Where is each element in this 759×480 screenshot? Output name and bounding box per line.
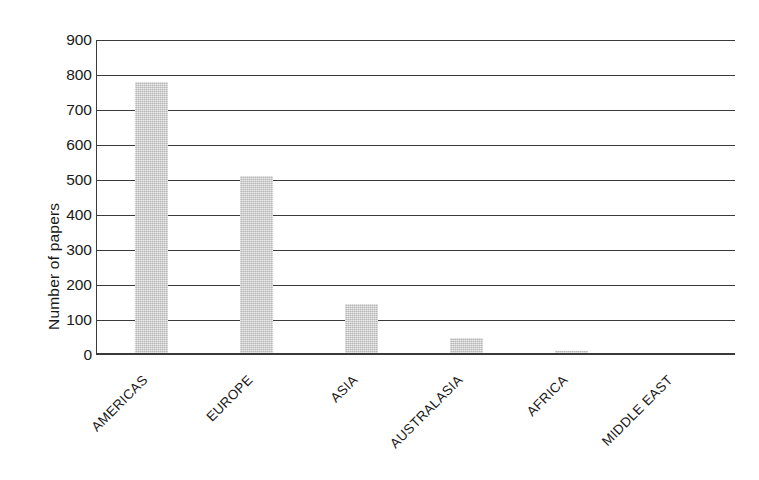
x-axis-label-asia: ASIA [328,373,360,405]
y-axis-tick-label: 700 [52,102,92,118]
y-axis-tick-label: 500 [52,172,92,188]
gridline [96,145,735,146]
x-axis-label-europe: EUROPE [204,373,255,424]
plot-area [96,40,735,355]
y-axis-tick-label: 0 [52,347,92,363]
bar-europe [240,176,273,355]
y-axis-tick-label: 300 [52,242,92,258]
y-axis-tick-label: 800 [52,67,92,83]
gridline [96,250,735,251]
bar-americas [135,82,168,355]
gridline [96,110,735,111]
x-axis-label-americas: AMERICAS [89,373,150,434]
gridline [96,320,735,321]
x-axis-label-australasia: AUSTRALASIA [388,373,466,451]
bar-asia [345,304,378,355]
gridline [96,180,735,181]
y-axis-tick-labels: 0100200300400500600700800900 [52,40,92,355]
gridline [96,40,735,41]
bar-chart-figure: Number of papers 01002003004005006007008… [0,0,759,480]
gridline [96,215,735,216]
y-axis-tick-label: 200 [52,277,92,293]
y-axis-tick-label: 400 [52,207,92,223]
x-axis-label-africa: AFRICA [524,373,570,419]
gridline [96,75,735,76]
gridline [96,285,735,286]
y-axis-tick-label: 900 [52,32,92,48]
y-axis-line [96,40,97,355]
x-axis-category-labels: AMERICASEUROPEASIAAUSTRALASIAAFRICAMIDDL… [96,357,759,477]
x-axis-label-middle-east: MIDDLE EAST [600,373,676,449]
y-axis-tick-label: 100 [52,312,92,328]
y-axis-tick-label: 600 [52,137,92,153]
x-axis-line [96,353,735,355]
